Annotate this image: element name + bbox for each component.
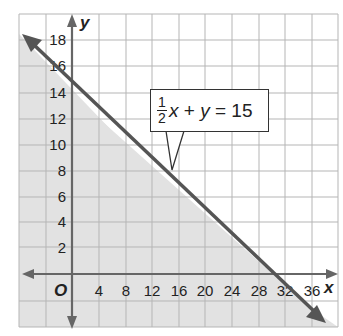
svg-text:18: 18 [49,31,66,48]
eq-x: x [169,100,179,122]
svg-text:24: 24 [224,282,241,299]
svg-text:28: 28 [251,282,268,299]
eq-y: y [200,100,210,122]
origin-label: O [54,281,67,300]
y-axis-label: y [79,13,91,32]
graph-canvas: 18 16 14 12 10 8 6 4 2 4 8 12 16 20 24 2… [0,0,343,336]
y-axis-arrow-up-icon [67,14,77,27]
svg-text:14: 14 [49,84,66,101]
svg-text:20: 20 [197,282,214,299]
eq-rhs: = 15 [210,100,253,122]
svg-text:36: 36 [304,282,321,299]
svg-text:6: 6 [58,188,66,205]
x-axis-label: x [323,278,335,297]
svg-text:4: 4 [95,282,103,299]
svg-text:8: 8 [122,282,130,299]
svg-text:12: 12 [144,282,161,299]
svg-text:2: 2 [58,239,66,256]
svg-text:12: 12 [49,110,66,127]
eq-plus: + [179,100,201,122]
equation-callout: 1 2 x + y = 15 [150,89,269,132]
svg-text:10: 10 [49,136,66,153]
svg-text:16: 16 [171,282,188,299]
svg-text:8: 8 [58,162,66,179]
callout-pointer [166,131,184,170]
svg-text:4: 4 [58,213,66,230]
fraction-one-half: 1 2 [157,95,167,126]
